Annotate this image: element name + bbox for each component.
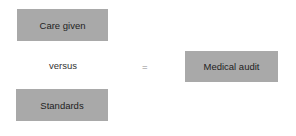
care-given-box: Care given	[17, 9, 108, 41]
equals-sign: =	[142, 61, 148, 72]
care-given-label: Care given	[40, 20, 86, 31]
standards-box: Standards	[16, 89, 108, 121]
medical-audit-box: Medical audit	[185, 51, 278, 82]
versus-label: versus	[49, 60, 77, 71]
standards-label: Standards	[40, 100, 83, 111]
medical-audit-label: Medical audit	[204, 61, 260, 72]
